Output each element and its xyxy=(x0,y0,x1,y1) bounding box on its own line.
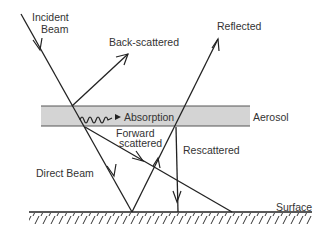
label-forward-2: scattered xyxy=(119,137,162,149)
forward-scattered-arrowhead-icon xyxy=(132,151,143,161)
label-incident-2: Beam xyxy=(41,23,69,35)
label-absorption: Absorption xyxy=(124,111,174,123)
label-surface: Surface xyxy=(276,201,312,213)
label-rescattered: Rescattered xyxy=(183,144,240,156)
label-reflected: Reflected xyxy=(217,20,262,32)
label-aerosol: Aerosol xyxy=(253,111,289,123)
label-incident-1: Incident xyxy=(32,11,69,23)
label-back-scattered: Back-scattered xyxy=(109,36,179,48)
surface-hatching xyxy=(29,213,312,224)
label-direct-beam: Direct Beam xyxy=(36,167,94,179)
back-scattered-arrow xyxy=(72,54,128,106)
aerosol-radiation-diagram: Incident Beam Back-scattered Reflected A… xyxy=(0,0,325,237)
